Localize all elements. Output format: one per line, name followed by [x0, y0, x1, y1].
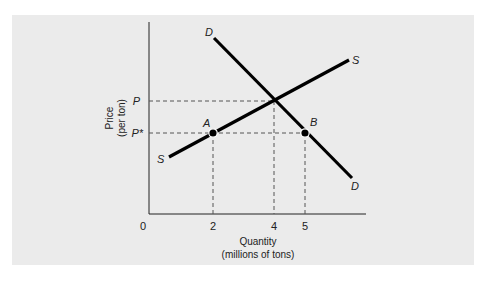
reference-lines — [149, 101, 305, 214]
supply-curve — [169, 60, 349, 157]
point-B-label: B — [310, 116, 317, 128]
demand-curve — [214, 38, 352, 178]
supply-demand-chart: D D S S A B P P* 0 2 4 5 Quantity (milli… — [0, 0, 486, 281]
supply-label-top: S — [352, 54, 360, 66]
y-axis-title: Price — [104, 106, 115, 129]
x-axis-subtitle: (millions of tons) — [222, 249, 295, 260]
point-A-label: A — [202, 117, 210, 129]
x-tick-5: 5 — [302, 220, 308, 232]
point-B-marker — [301, 129, 309, 137]
supply-label-bottom: S — [157, 153, 165, 165]
x-tick-2: 2 — [210, 220, 216, 232]
demand-label-bottom: D — [351, 180, 359, 192]
x-tick-4: 4 — [271, 220, 277, 232]
demand-label-top: D — [205, 26, 213, 38]
point-A-marker — [209, 129, 217, 137]
y-axis-title-group: Price (per ton) — [104, 99, 127, 137]
x-axis-title: Quantity — [239, 236, 276, 247]
y-tick-Pstar: P* — [131, 127, 143, 139]
y-axis-subtitle: (per ton) — [116, 99, 127, 137]
x-tick-0: 0 — [140, 220, 146, 232]
y-tick-P: P — [133, 95, 141, 107]
